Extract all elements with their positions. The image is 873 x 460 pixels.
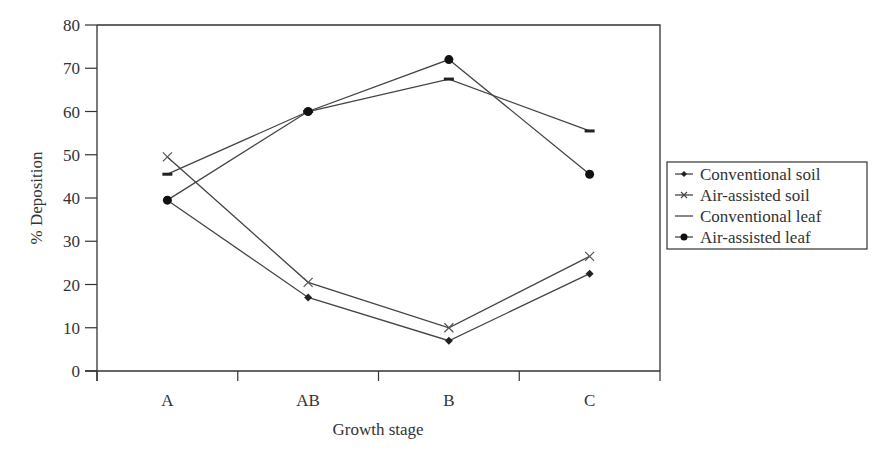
circle-marker-icon [304,107,313,116]
dash-marker-icon [162,173,172,176]
dash-marker-icon [444,78,454,81]
x-tick-label: AB [296,391,320,410]
y-tick-label: 80 [63,16,80,35]
dash-marker-icon [585,129,595,132]
x-axis-title: Growth stage [332,420,423,439]
y-tick-label: 0 [72,362,81,381]
series-layer [162,55,594,345]
y-tick-label: 50 [63,146,80,165]
series-line [167,60,589,201]
circle-marker-icon [163,196,172,205]
legend-label: Air-assisted leaf [700,228,811,247]
series-line [167,200,589,341]
x-tick-label: B [443,391,454,410]
legend: Conventional soilAir-assisted soilConven… [667,162,867,249]
y-tick-label: 70 [63,59,80,78]
y-axis-title: % Deposition [27,151,46,245]
diamond-marker-icon [445,337,453,345]
diamond-marker-icon [304,293,312,301]
y-tick-label: 60 [63,103,80,122]
y-axis: 01020304050607080 [63,16,97,381]
series-conventional-leaf [162,78,594,176]
diamond-marker-icon [586,270,594,278]
line-chart: 01020304050607080 AABBC % Deposition Gro… [0,0,873,460]
legend-label: Air-assisted soil [700,186,810,205]
series-air-assisted-leaf [163,55,594,205]
y-tick-label: 40 [63,189,80,208]
y-tick-label: 20 [63,276,80,295]
x-axis: AABBC [85,371,660,410]
series-conventional-soil [163,196,593,345]
series-line [167,157,589,328]
x-marker-icon [163,152,172,161]
x-tick-label: A [161,391,174,410]
x-marker-icon [585,252,594,261]
legend-label: Conventional leaf [700,207,822,226]
y-tick-label: 30 [63,232,80,251]
circle-marker-icon [444,55,453,64]
x-tick-label: C [584,391,595,410]
y-tick-label: 10 [63,319,80,338]
x-marker-icon [304,278,313,287]
circle-marker-icon [585,170,594,179]
x-marker-icon [444,323,453,332]
legend-label: Conventional soil [700,165,821,184]
circle-marker-icon [681,234,688,241]
